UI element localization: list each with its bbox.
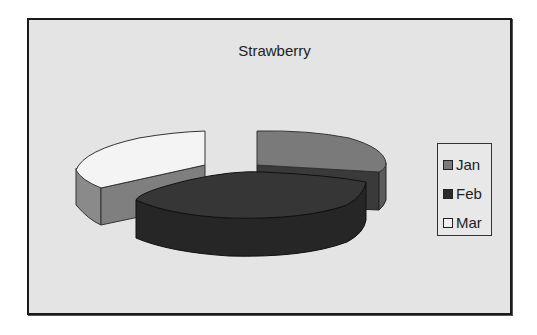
- legend-item-jan: Jan: [438, 150, 491, 179]
- legend-label-mar: Mar: [456, 215, 482, 230]
- legend-swatch-jan: [443, 160, 453, 170]
- legend-swatch-feb: [443, 189, 453, 199]
- chart-area: Strawberry Jan Feb: [27, 18, 512, 315]
- legend-label-jan: Jan: [456, 157, 480, 172]
- legend-item-feb: Feb: [438, 179, 491, 208]
- chart-legend: Jan Feb Mar: [437, 143, 492, 236]
- pie-slice-feb: [136, 172, 366, 257]
- legend-label-feb: Feb: [456, 186, 482, 201]
- legend-swatch-mar: [443, 218, 453, 228]
- legend-item-mar: Mar: [438, 208, 491, 237]
